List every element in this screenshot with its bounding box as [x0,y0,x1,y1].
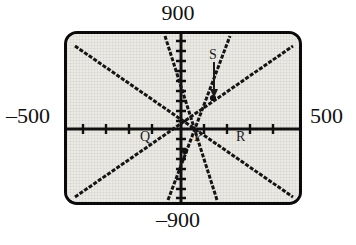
point-label-s: S [209,47,217,62]
y-axis-min-label: –900 [0,209,356,231]
graph-plot: Q P R S [67,34,299,202]
intersection-point-p-lower [182,148,188,154]
point-label-q: Q [140,129,150,144]
y-axis-max-label: 900 [0,2,356,24]
plot-surface: Q P R S [67,34,299,202]
screenshot-root: 900 –900 –500 500 [0,0,356,245]
point-label-p: P [194,129,202,144]
x-axis-min-label: –500 [6,105,50,127]
calculator-screen: Q P R S [64,31,302,205]
point-label-r: R [236,129,246,144]
x-axis-max-label: 500 [310,105,343,127]
intersection-point-s [210,95,216,101]
